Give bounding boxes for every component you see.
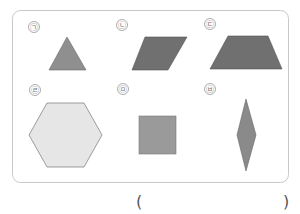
label-d: ㉣: [31, 86, 39, 95]
label-e: ㉤: [119, 85, 127, 94]
square-shape: [139, 116, 176, 154]
label-b: ㉡: [118, 21, 126, 30]
answer-open-paren: (: [136, 192, 142, 212]
figure-canvas: ㉠ ㉡ ㉢ ㉣ ㉤ ㉥: [0, 0, 300, 214]
answer-close-paren: ): [283, 192, 289, 212]
answer-blank[interactable]: [146, 194, 282, 212]
label-c: ㉢: [206, 20, 214, 29]
label-f: ㉥: [206, 85, 214, 94]
label-a: ㉠: [30, 23, 38, 32]
